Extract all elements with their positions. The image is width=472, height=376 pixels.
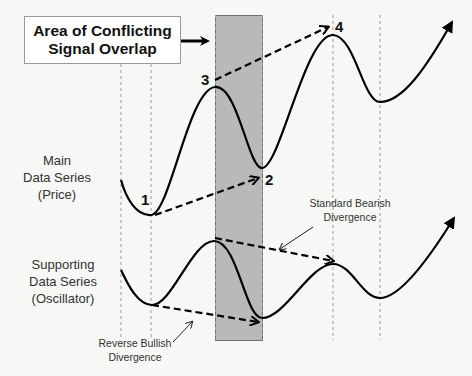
title-line-1: Area of Conflicting [33, 22, 172, 40]
bullish-divergence-label: Reverse Bullish Divergence [90, 336, 180, 364]
point-1-label: 1 [141, 191, 149, 208]
point-2-label: 2 [265, 171, 273, 188]
point-3-label: 3 [201, 71, 209, 88]
overlap-title-box: Area of Conflicting Signal Overlap [24, 16, 181, 64]
title-line-2: Signal Overlap [48, 40, 157, 58]
overlap-region [216, 16, 263, 341]
main-series-label: Main Data Series (Price) [12, 152, 102, 203]
oscillator-curve [121, 218, 454, 318]
bearish-pointer [280, 227, 313, 249]
bearish-divergence-label: Standard Bearish Divergence [300, 196, 400, 224]
supporting-series-label: Supporting Data Series (Oscillator) [15, 256, 111, 307]
point-4-label: 4 [335, 18, 343, 35]
